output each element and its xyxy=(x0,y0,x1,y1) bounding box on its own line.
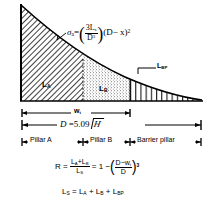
paren-close: ) xyxy=(98,23,104,43)
dimension-D xyxy=(22,117,201,133)
figure-root: σa=( 3Ls D3 )(D− x)2 LA LB LBP wt D =5.0… xyxy=(0,0,210,210)
equation-recovery-ratio: R = LA+LB LS = 1 −( D−wt D )3 xyxy=(55,158,139,176)
eq2-term-1: LA xyxy=(79,187,87,196)
eq2-term-2: LB xyxy=(96,187,104,196)
paren-open: ( xyxy=(79,23,85,43)
eq1-fraction: LA+LB LS xyxy=(70,158,90,176)
callout-label-lbp: LBP xyxy=(157,62,167,70)
eq1-exponent: 3 xyxy=(137,163,140,168)
eq1-paren-close: ) xyxy=(132,159,137,175)
eq1-one-minus: 1 − xyxy=(99,162,110,171)
eq1-denominator: LS xyxy=(70,167,90,175)
eq2-term-3: LBP xyxy=(113,187,124,196)
eq1-inner-fraction: D−wt D xyxy=(115,159,132,175)
eq2-plus-1: + xyxy=(89,187,94,196)
stress-formula-fraction: 3Ls D3 xyxy=(85,24,98,42)
region-label-pillar-b: LB xyxy=(99,84,107,93)
eq1-inner-numerator: D−wt xyxy=(115,159,132,168)
segment-label-pillar-b: Pillar B xyxy=(90,136,112,143)
dimension-label-D: D =5.09H xyxy=(60,118,102,129)
stress-formula-rhs: (D− x)2 xyxy=(103,27,130,37)
stress-formula-sigma: σa xyxy=(67,27,74,37)
dimension-label-wt: wt xyxy=(74,107,81,115)
equation-span-sum: LS = LA + LB + LBP xyxy=(62,188,124,197)
eq1-equals-1: = xyxy=(63,162,68,171)
eq2-equals: = xyxy=(72,187,77,196)
eq1-paren-open: ( xyxy=(110,159,115,175)
stress-formula: σa=( 3Ls D3 )(D− x)2 xyxy=(67,24,130,42)
lbp-callout-leader xyxy=(138,68,156,74)
eq1-lhs: R xyxy=(55,162,61,171)
eq1-numerator: LA+LB xyxy=(70,158,90,167)
radical-H: H xyxy=(90,118,103,129)
eq2-plus-2: + xyxy=(106,187,111,196)
fraction-denominator: D3 xyxy=(85,34,98,42)
eq1-equals-2: = xyxy=(92,162,97,171)
region-label-pillar-a: LA xyxy=(42,80,50,89)
segment-label-pillar-a: Pillar A xyxy=(30,136,52,143)
eq1-inner-denominator: D xyxy=(115,168,132,175)
eq2-lhs: LS xyxy=(62,187,70,196)
segment-label-barrier-pillar: Barrier pillar xyxy=(137,136,175,143)
